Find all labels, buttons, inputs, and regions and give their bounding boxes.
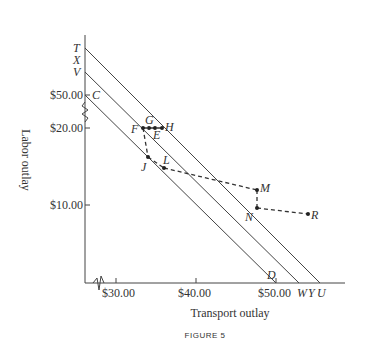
data-points [141,126,310,216]
label-N: N [244,210,254,224]
label-L: L [162,153,170,167]
label-J: J [141,160,147,174]
x-tick-label: $30.00 [102,286,135,300]
point-N [255,206,259,210]
label-R: R [310,208,319,222]
iso-line-T-U [85,48,320,283]
label-D: D [266,268,276,282]
iso-line-C-D [85,95,276,283]
diagram-figure: T X V C $50.00 $20.00 $10.00 $30.00 $40.… [0,0,383,347]
label-M: M [259,181,271,195]
label-W: W [297,286,308,300]
point-J [146,155,150,159]
point-R [306,212,310,216]
y-tick-label: $20.00 [50,121,83,135]
x-axis-title: Transport outlay [190,306,269,320]
figure-caption: FIGURE 5 [185,331,226,340]
label-V: V [73,65,82,79]
y-tick-label: $50.00 [50,88,83,102]
x-tick-label: $40.00 [178,286,211,300]
y-axis-title: Labor outlay [19,129,33,191]
label-U: U [317,286,327,300]
y-tick-label: $10.00 [50,198,83,212]
label-C: C [92,88,101,102]
label-E: E [152,128,161,142]
label-Y: Y [308,286,316,300]
point-M [255,188,259,192]
iso-line-V-Y [85,72,299,283]
label-H: H [164,120,175,134]
dashed-path [143,128,308,214]
x-tick-label: $50.00 [258,286,291,300]
point-H [160,126,164,130]
label-F: F [130,122,139,136]
label-G: G [145,113,154,127]
